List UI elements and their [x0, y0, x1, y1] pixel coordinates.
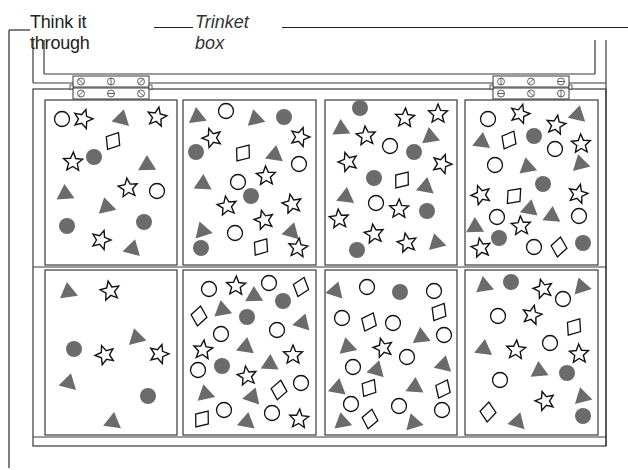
hollow-diamond-icon [427, 299, 451, 324]
filled-circle-icon [188, 144, 204, 160]
hinges [70, 76, 572, 99]
hollow-circle-icon [191, 363, 206, 378]
hollow-circle-icon [360, 280, 375, 295]
filled-triangle-icon [336, 186, 356, 203]
hollow-star-icon [200, 125, 224, 148]
filled-circle-icon [535, 176, 551, 192]
filled-circle-icon [575, 408, 591, 424]
hollow-circle-icon [490, 210, 505, 225]
filled-triangle-icon [434, 353, 455, 372]
filled-triangle-icon [332, 410, 353, 428]
filled-circle-icon [503, 274, 519, 290]
filled-triangle-icon [570, 275, 592, 295]
hollow-star-icon [289, 408, 309, 427]
filled-triangle-icon [337, 335, 358, 353]
hollow-circle-icon [214, 327, 229, 342]
filled-circle-icon [419, 203, 435, 219]
hollow-diamond-icon [358, 310, 381, 335]
filled-circle-icon [136, 214, 152, 230]
compartment-top-1 [45, 100, 177, 265]
filled-triangle-icon [568, 103, 589, 122]
filled-triangle-icon [569, 152, 590, 171]
hollow-star-icon [252, 208, 275, 230]
hollow-circle-icon [265, 406, 280, 421]
compartment-bottom-4 [465, 270, 598, 435]
hollow-circle-icon [202, 282, 217, 297]
filled-circle-icon [392, 284, 408, 300]
compartment-bottom-2 [183, 270, 316, 435]
screw-icon [108, 90, 115, 97]
filled-triangle-icon [420, 126, 440, 144]
compartment-top-2 [183, 100, 316, 265]
filled-triangle-icon [187, 106, 207, 123]
compartment-top-3 [325, 100, 457, 265]
filled-triangle-icon [195, 382, 216, 400]
hollow-star-icon [569, 344, 589, 363]
filled-triangle-icon [281, 220, 302, 239]
compartment-bottom-1 [45, 270, 177, 435]
screw-icon [78, 90, 85, 97]
filled-triangle-icon [265, 144, 285, 162]
hollow-circle-icon [346, 360, 361, 375]
hollow-star-icon [99, 279, 121, 300]
filled-triangle-icon [325, 279, 347, 299]
filled-circle-icon [575, 235, 591, 251]
filled-circle-icon [559, 365, 575, 381]
filled-triangle-icon [194, 174, 213, 190]
filled-circle-icon [214, 358, 230, 374]
hollow-star-icon [146, 105, 168, 126]
hollow-circle-icon [556, 292, 571, 307]
hollow-star-icon [117, 177, 138, 197]
hollow-circle-icon [435, 403, 450, 418]
filled-circle-icon [59, 218, 75, 234]
trinket-box-diagram [0, 0, 628, 470]
hollow-diamond-icon [431, 377, 454, 402]
filled-circle-icon [275, 293, 291, 309]
screw-icon [78, 78, 85, 85]
hinge-left [70, 76, 152, 99]
filled-triangle-icon [474, 338, 494, 355]
hollow-diamond-icon [479, 401, 497, 422]
hollow-circle-icon [427, 284, 442, 299]
hollow-diamond-icon [497, 127, 521, 152]
hollow-diamond-icon [360, 408, 380, 431]
hollow-diamond-icon [562, 314, 587, 340]
filled-circle-icon [140, 388, 156, 404]
filled-triangle-icon [517, 155, 538, 173]
hollow-star-icon [567, 182, 590, 204]
filled-triangle-icon [406, 376, 425, 392]
hollow-circle-icon [386, 316, 401, 331]
hollow-star-icon [533, 389, 556, 412]
hollow-star-icon [389, 199, 408, 217]
hollow-star-icon [356, 125, 377, 145]
hollow-circle-icon [481, 112, 496, 127]
hollow-star-icon [336, 150, 360, 173]
hollow-circle-icon [270, 323, 285, 338]
hollow-star-icon [571, 134, 591, 153]
filled-triangle-icon [245, 286, 263, 301]
filled-triangle-icon [95, 195, 116, 214]
screw-icon [138, 78, 145, 85]
hollow-star-icon [521, 303, 544, 325]
hollow-circle-icon [392, 399, 407, 414]
hollow-circle-icon [437, 328, 452, 343]
hollow-circle-icon [150, 184, 165, 199]
filled-triangle-icon [55, 183, 74, 199]
hollow-star-icon [89, 228, 113, 251]
filled-triangle-icon [242, 385, 264, 405]
hollow-star-icon [506, 339, 526, 358]
filled-triangle-icon [416, 176, 436, 194]
filled-triangle-icon [138, 155, 156, 170]
hollow-star-icon [288, 237, 309, 257]
filled-triangle-icon [112, 107, 133, 126]
hollow-star-icon [511, 215, 531, 234]
hollow-circle-icon [294, 376, 309, 391]
hinge-right [490, 76, 572, 99]
hollow-diamond-icon [501, 183, 526, 209]
screw-icon [528, 90, 535, 97]
hollow-circle-icon [572, 209, 587, 224]
hollow-star-icon [429, 104, 448, 122]
screw-icon [138, 90, 145, 97]
filled-circle-icon [193, 240, 209, 256]
hollow-star-icon [281, 192, 303, 214]
